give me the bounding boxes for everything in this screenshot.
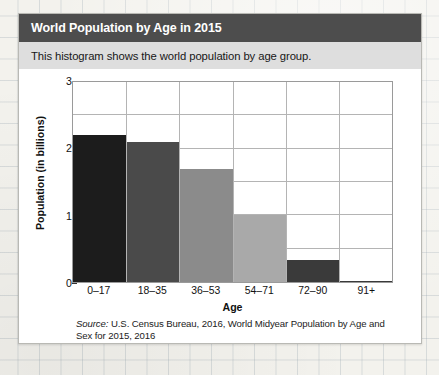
- bar-1835[interactable]: [126, 142, 179, 282]
- bin-separator-2: [179, 82, 180, 282]
- histogram-chart: Population (in billions) 0123 0–1718–353…: [19, 69, 421, 343]
- y-tick-label-3: 3: [56, 75, 72, 87]
- bin-separator-3: [233, 82, 234, 282]
- bar-017[interactable]: [73, 135, 126, 282]
- card-title-bar: World Population by Age in 2015: [19, 14, 421, 42]
- y-tick-label-2: 2: [56, 142, 72, 154]
- x-tick-label-91+: 91+: [340, 285, 394, 296]
- bin-separator-1: [126, 82, 127, 282]
- y-axis-title: Population (in billions): [33, 93, 47, 253]
- y-tick-mark-0: [72, 283, 77, 284]
- x-tick-label-5471: 54–71: [233, 285, 287, 296]
- x-tick-label-1835: 18–35: [126, 285, 180, 296]
- card-subtitle: This histogram shows the world populatio…: [31, 50, 311, 62]
- page-title: World Population by Age in 2015: [31, 21, 222, 35]
- bar-5471[interactable]: [233, 215, 286, 282]
- x-tick-label-3653: 36–53: [179, 285, 233, 296]
- y-tick-label-0: 0: [56, 277, 72, 289]
- source-label: Source:: [76, 318, 108, 329]
- y-tick-label-1: 1: [56, 210, 72, 222]
- bar-91+[interactable]: [339, 281, 392, 282]
- x-tick-label-017: 0–17: [72, 285, 126, 296]
- source-text: U.S. Census Bureau, 2016, World Midyear …: [76, 318, 385, 341]
- x-axis-tick-labels: 0–1718–3536–5354–7172–9091+: [72, 285, 393, 296]
- source-note: Source: U.S. Census Bureau, 2016, World …: [76, 318, 396, 343]
- plot-area: [72, 81, 393, 283]
- bin-separator-4: [286, 82, 287, 282]
- bar-7290[interactable]: [286, 260, 339, 282]
- bin-separator-5: [339, 82, 340, 282]
- chart-card: World Population by Age in 2015 This his…: [18, 13, 422, 344]
- x-tick-label-7290: 72–90: [286, 285, 340, 296]
- x-axis-title: Age: [72, 301, 393, 313]
- bar-3653[interactable]: [179, 169, 232, 282]
- card-subtitle-bar: This histogram shows the world populatio…: [19, 42, 421, 69]
- y-axis-ticks: 0123: [46, 81, 72, 283]
